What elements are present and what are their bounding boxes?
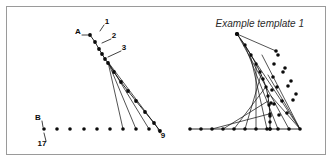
curve-node-7 [266,94,269,97]
grid-node-6 [291,98,295,102]
apex-node [235,32,239,36]
curve-node-2 [249,53,252,56]
baseline-node-6 [121,127,125,131]
grid-node-2 [289,79,293,83]
grid-node-10 [272,102,276,106]
axis-node-3 [270,88,274,92]
template-baseline-node-2 [210,127,214,131]
construction-figure-svg: A1239B17 Example template 1 [0,0,332,163]
template-baseline-node-7 [265,127,269,131]
spine-node-3 [100,52,104,56]
template-baseline-node-0 [188,127,192,131]
curve-node-5 [261,77,264,80]
figure-container: A1239B17 Example template 1 [0,0,332,163]
template-baseline-node-5 [243,127,247,131]
grid-node-8 [280,99,284,103]
label-A: A [75,27,81,36]
spine-node-7 [119,80,123,84]
spine-node-5 [106,61,110,65]
grid-node-0 [276,53,280,57]
baseline-node-4 [95,127,99,131]
baseline-node-3 [82,127,86,131]
example-template-caption: Example template 1 [216,18,304,29]
spine-node-4 [103,57,107,61]
template-baseline-node-6 [254,127,258,131]
label-17: 17 [38,139,47,148]
spine-node-8 [126,89,130,93]
grid-node-5 [286,84,290,88]
spine-node-10 [143,110,147,114]
grid-node-7 [275,85,279,89]
template-baseline-node-3 [221,127,225,131]
grid-node-11 [277,113,281,117]
label-9: 9 [161,131,166,140]
curve-node-8 [267,103,270,106]
curve-node-11 [268,127,271,130]
figure-frame [7,7,326,155]
baseline-node-5 [108,127,112,131]
grid-node-9 [285,111,289,115]
label-2: 2 [112,31,117,40]
template-baseline-node-9 [287,127,291,131]
axis-node-5 [272,62,276,66]
label-3: 3 [122,43,127,52]
baseline-node-0 [42,127,46,131]
curve-node-10 [268,120,271,123]
spine-node-2 [97,47,101,51]
curve-node-4 [258,70,261,73]
curve-node-3 [254,62,257,65]
curve-node-6 [264,85,267,88]
baseline-node-7 [134,127,138,131]
label-1: 1 [105,17,110,26]
grid-node-1 [283,66,287,70]
label-B: B [35,113,41,122]
curve-node-9 [268,112,271,115]
baseline-node-1 [55,127,59,131]
spine-node-6 [112,70,116,74]
spine-node-9 [134,99,138,103]
axis-node-4 [271,75,275,79]
template-baseline-node-1 [199,127,203,131]
axis-node-6 [274,49,278,53]
template-baseline-node-4 [232,127,236,131]
template-baseline-node-10 [298,127,302,131]
curve-node-1 [243,43,246,46]
baseline-node-2 [68,127,72,131]
template-baseline-node-8 [276,127,280,131]
spine-node-11 [152,121,156,125]
grid-node-4 [281,70,285,74]
spine-node-1 [93,40,97,44]
grid-node-3 [294,92,298,96]
baseline-node-8 [147,127,151,131]
